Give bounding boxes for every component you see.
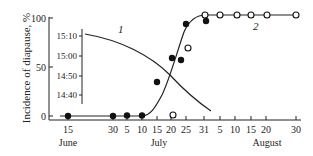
curve-1-day-length [85,34,211,111]
filled-points [65,18,209,119]
x-tick-label: 20 [261,124,271,135]
x-tick-label: 15 [246,124,256,135]
inset-axis [79,29,82,104]
x-tick-label: 10 [137,124,147,135]
x-tick-labels: 15 30 5 10 15 20 25 31 5 10 15 20 30 [63,124,301,135]
inset-tick-label: 14:50 [56,71,77,81]
x-tick-label: 25 [181,124,191,135]
diapause-chart: Incidence of diapause, % 100 50 0 15 30 … [0,0,313,156]
y-tick-100: 100 [31,13,46,24]
inset-tick-label: 14:40 [56,90,77,100]
x-tick-label: 30 [291,124,301,135]
y-tick-0: 0 [41,111,46,122]
month-label-august: August [253,137,282,148]
inset-tick-label: 15:10 [56,31,77,41]
x-tick-label: 10 [230,124,240,135]
month-label-june: June [59,137,78,148]
x-tick-label: 30 [108,124,118,135]
main-axes [49,17,301,120]
x-tick-label: 5 [125,124,130,135]
month-label-july: July [151,137,168,148]
x-tick-label: 20 [166,124,176,135]
curve-label-1: 1 [118,23,124,35]
x-tick-label: 15 [63,124,73,135]
y-axis-label: Incidence of diapause, % [20,13,32,124]
x-tick-label: 31 [199,124,209,135]
y-tick-50: 50 [36,62,46,73]
x-tick-label: 5 [218,124,223,135]
open-points [170,12,299,118]
inset-tick-labels: 15:10 15:00 14:50 14:40 [56,31,77,100]
month-labels: June July August [59,137,282,148]
inset-tick-label: 15:00 [56,51,77,61]
x-tick-label: 15 [152,124,162,135]
curve-label-2: 2 [253,20,259,32]
curve-2-diapause [60,15,298,116]
